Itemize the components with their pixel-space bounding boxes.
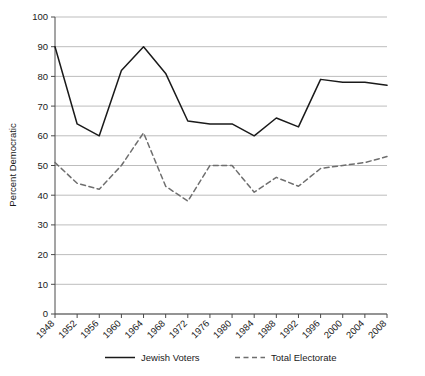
y-axis-tick-label: 20 xyxy=(37,249,48,260)
y-axis-tick-label: 90 xyxy=(37,41,48,52)
y-axis-tick-label: 30 xyxy=(37,219,48,230)
y-axis-title: Percent Democratic xyxy=(7,123,18,207)
legend-label-total-electorate: Total Electorate xyxy=(271,352,336,363)
line-chart: 0102030405060708090100 19481952195619601… xyxy=(0,0,425,376)
y-axis-tick-label: 50 xyxy=(37,160,48,171)
y-axis-tick-label: 80 xyxy=(37,71,48,82)
y-axis-tick-label: 40 xyxy=(37,190,48,201)
y-axis-tick-label: 100 xyxy=(32,11,48,22)
y-axis-tick-label: 10 xyxy=(37,279,48,290)
y-axis-tick-label: 70 xyxy=(37,101,48,112)
y-axis-tick-label: 60 xyxy=(37,130,48,141)
chart-background xyxy=(0,0,425,376)
chart-container: 0102030405060708090100 19481952195619601… xyxy=(0,0,425,376)
legend-label-jewish-voters: Jewish Voters xyxy=(141,352,200,363)
